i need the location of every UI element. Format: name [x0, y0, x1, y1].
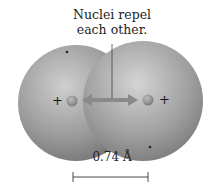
electron-dot-left — [66, 51, 69, 54]
right-positive-charge: + — [159, 92, 170, 107]
left-nucleus — [67, 96, 78, 107]
right-nucleus — [143, 95, 154, 106]
h2-molecule-diagram — [0, 0, 216, 195]
left-positive-charge: + — [52, 93, 63, 108]
electron-dot-right — [149, 146, 152, 149]
scale-bar-label: 0.74 Å — [70, 150, 154, 164]
scale-bar — [73, 172, 148, 182]
